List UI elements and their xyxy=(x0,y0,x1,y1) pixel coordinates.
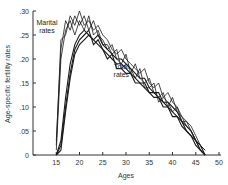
y-axis: 0.05.10.15.20.25.30 xyxy=(19,8,36,159)
x-tick-label: 25 xyxy=(99,159,107,166)
total-rates-annotation: Totalrates xyxy=(114,63,130,78)
x-axis: 1520253035404550 xyxy=(33,152,223,166)
y-tick-label: .25 xyxy=(19,32,29,39)
y-tick-label: .10 xyxy=(19,104,29,111)
total-rates-line xyxy=(56,30,205,155)
x-tick-label: 30 xyxy=(122,159,130,166)
x-tick-label: 35 xyxy=(145,159,153,166)
x-tick-label: 40 xyxy=(169,159,177,166)
series-lines xyxy=(56,11,205,155)
y-tick-label: .05 xyxy=(19,128,29,135)
total-rates-line xyxy=(56,35,205,155)
x-tick-label: 20 xyxy=(76,159,84,166)
marital-rates-annotation: Maritalrates xyxy=(36,19,57,34)
y-tick-label: 0 xyxy=(25,152,29,159)
marital-rates-line xyxy=(56,11,205,150)
y-tick-label: .15 xyxy=(19,80,29,87)
y-tick-label: .30 xyxy=(19,8,29,15)
total-rates-line xyxy=(56,30,205,155)
fertility-line-chart: 0.05.10.15.20.25.30 1520253035404550 Mar… xyxy=(0,0,228,185)
x-tick-label: 50 xyxy=(215,159,223,166)
x-axis-title: Ages xyxy=(118,172,134,180)
y-tick-label: .20 xyxy=(19,56,29,63)
x-tick-label: 45 xyxy=(192,159,200,166)
x-tick-label: 15 xyxy=(52,159,60,166)
y-axis-title: Age-specific fertility rates xyxy=(4,45,12,123)
